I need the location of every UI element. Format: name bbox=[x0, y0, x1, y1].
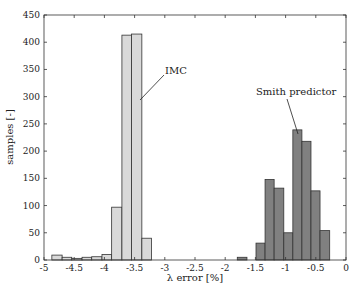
x-tick-label: -4.5 bbox=[66, 263, 84, 273]
histogram-bar bbox=[274, 188, 284, 260]
x-tick-label: -0.5 bbox=[307, 263, 325, 273]
y-tick-label: 400 bbox=[23, 37, 40, 47]
x-tick-label: -3.5 bbox=[126, 263, 144, 273]
y-tick-label: 350 bbox=[23, 64, 40, 74]
y-tick-label: 300 bbox=[23, 92, 40, 102]
histogram-bar bbox=[132, 34, 142, 260]
y-tick-label: 50 bbox=[29, 228, 41, 238]
y-tick-label: 450 bbox=[23, 10, 40, 20]
histogram-bar bbox=[265, 179, 274, 260]
x-tick-label: -1 bbox=[281, 263, 290, 273]
y-tick-label: 150 bbox=[23, 173, 40, 183]
histogram-bar bbox=[52, 255, 62, 260]
histogram-bar bbox=[62, 257, 72, 260]
histogram-bar bbox=[256, 243, 265, 260]
y-tick-label: 250 bbox=[23, 119, 40, 129]
histogram-bar bbox=[142, 238, 152, 260]
histogram-bar bbox=[82, 257, 92, 260]
annotation-smith-predictor: Smith predictor bbox=[256, 86, 337, 134]
y-tick-label: 200 bbox=[23, 146, 40, 156]
histogram-bar bbox=[237, 257, 247, 260]
histogram-bar bbox=[302, 141, 311, 260]
histogram-bar bbox=[284, 233, 293, 260]
bars bbox=[52, 34, 330, 260]
annotation-imc: IMC bbox=[140, 65, 187, 100]
y-tick-label: 0 bbox=[34, 255, 40, 265]
y-tick-label: 100 bbox=[23, 201, 40, 211]
histogram-chart: -5-4.5-4-3.5-3-2.5-2-1.5-1-0.50050100150… bbox=[0, 0, 359, 299]
x-tick-label: -1.5 bbox=[247, 263, 265, 273]
histogram-bar bbox=[293, 130, 302, 260]
histogram-bar bbox=[102, 255, 112, 260]
histogram-bar bbox=[320, 231, 330, 260]
y-axis-label: samples [-] bbox=[4, 109, 15, 165]
histogram-bar bbox=[112, 207, 122, 260]
histogram-bar bbox=[311, 191, 320, 260]
svg-text:IMC: IMC bbox=[165, 65, 187, 76]
histogram-bar bbox=[122, 35, 132, 260]
x-axis-label: λ error [%] bbox=[167, 272, 223, 283]
x-tick-label: -5 bbox=[40, 263, 49, 273]
x-tick-label: -4 bbox=[100, 263, 109, 273]
x-tick-label: 0 bbox=[343, 263, 349, 273]
histogram-bar bbox=[92, 257, 102, 260]
svg-text:Smith predictor: Smith predictor bbox=[256, 86, 337, 97]
